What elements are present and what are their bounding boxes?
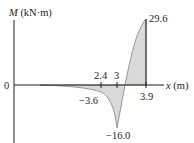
y-axis-label: M (kN·m) <box>8 7 52 19</box>
x-axis-label: x (m) <box>165 80 189 92</box>
positive-moment-area <box>125 19 146 85</box>
tick-label-2.4: 2.4 <box>94 70 108 81</box>
tick-label-3.9: 3.9 <box>140 91 153 102</box>
value-label-min: −16.0 <box>106 130 130 141</box>
zero-label: 0 <box>4 80 9 91</box>
tick-label-3: 3 <box>114 70 119 81</box>
moment-diagram: M (kN·m) 0 x (m) 2.4 3 3.9 −3.6 −16.0 29… <box>0 0 194 143</box>
value-label-neg3.6: −3.6 <box>79 95 98 106</box>
negative-moment-area <box>40 85 125 128</box>
value-label-max: 29.6 <box>149 13 167 24</box>
